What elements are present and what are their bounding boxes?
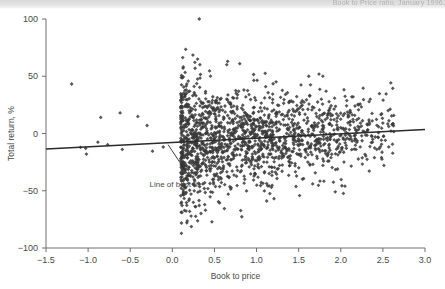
data-point: [244, 95, 248, 99]
data-point: [180, 231, 184, 235]
data-point: [280, 88, 284, 92]
data-point: [198, 85, 202, 89]
x-tick-label: 2.5: [377, 255, 390, 265]
data-point: [258, 106, 262, 110]
data-point: [242, 88, 246, 92]
data-point: [305, 116, 309, 120]
data-point: [189, 225, 193, 229]
data-point: [344, 146, 348, 150]
data-point: [347, 128, 351, 132]
data-point: [193, 66, 197, 70]
data-point: [70, 82, 74, 86]
data-point: [253, 164, 257, 168]
data-point: [322, 179, 326, 183]
data-point: [318, 108, 322, 112]
data-point: [189, 214, 193, 218]
figure-container: Book to Price ratio, January 1996. −100−…: [0, 0, 445, 289]
y-tick-label: −50: [23, 186, 38, 196]
data-point: [307, 74, 311, 78]
data-point: [360, 156, 364, 160]
data-point: [318, 87, 322, 91]
data-point: [329, 156, 333, 160]
data-point: [247, 93, 251, 97]
data-point: [318, 179, 322, 183]
data-point: [226, 59, 230, 63]
data-point: [391, 142, 395, 146]
data-point: [191, 200, 195, 204]
data-point: [297, 148, 301, 152]
data-point: [316, 100, 320, 104]
data-point: [295, 104, 299, 108]
x-tick-label: 0.5: [208, 255, 221, 265]
data-point: [263, 139, 267, 143]
data-point: [257, 110, 261, 114]
data-point: [194, 101, 198, 105]
data-point: [225, 170, 229, 174]
data-point: [217, 114, 221, 118]
x-tick-label: 2.0: [335, 255, 348, 265]
y-tick-label: −100: [18, 243, 38, 253]
data-point: [380, 138, 384, 142]
data-point: [288, 164, 292, 168]
data-point: [252, 178, 256, 182]
data-point: [343, 184, 347, 188]
x-axis-title: Book to price: [211, 271, 261, 281]
data-point: [235, 105, 239, 109]
data-point: [99, 116, 103, 120]
data-point: [197, 17, 201, 21]
data-point: [205, 169, 209, 173]
data-point: [306, 107, 310, 111]
data-point: [382, 164, 386, 168]
data-point: [305, 98, 309, 102]
data-point: [317, 183, 321, 187]
data-point: [282, 101, 286, 105]
data-point: [189, 192, 193, 196]
data-point: [260, 109, 264, 113]
data-point: [194, 214, 198, 218]
data-point: [294, 170, 298, 174]
data-point: [222, 207, 226, 211]
data-point: [280, 169, 284, 173]
data-point: [230, 169, 234, 173]
data-point: [378, 92, 382, 96]
data-point: [275, 177, 279, 181]
data-point: [188, 188, 192, 192]
x-tick-label: 1.5: [292, 255, 305, 265]
data-point: [262, 160, 266, 164]
data-point: [191, 53, 195, 57]
data-point: [321, 74, 325, 78]
data-point: [180, 221, 184, 225]
data-point: [333, 96, 337, 100]
data-point: [383, 138, 387, 142]
data-point: [268, 96, 272, 100]
data-point: [199, 212, 203, 216]
data-point: [235, 96, 239, 100]
data-point: [317, 72, 321, 76]
data-point: [280, 163, 284, 167]
data-point: [387, 119, 391, 123]
data-point: [387, 145, 391, 149]
data-point: [183, 71, 187, 75]
data-point: [343, 94, 347, 98]
data-point: [332, 128, 336, 132]
data-point: [272, 160, 276, 164]
data-point: [321, 102, 325, 106]
data-point: [307, 102, 311, 106]
data-point: [293, 164, 297, 168]
y-tick-label: 0: [33, 129, 38, 139]
data-point: [193, 60, 197, 64]
data-point: [274, 80, 278, 84]
data-point: [197, 204, 201, 208]
data-point: [381, 116, 385, 120]
data-point: [196, 219, 200, 223]
data-point: [281, 118, 285, 122]
data-point: [361, 86, 365, 90]
data-point: [210, 220, 214, 224]
data-point: [306, 153, 310, 157]
data-point: [235, 184, 239, 188]
data-point: [118, 111, 122, 115]
data-point: [203, 203, 207, 207]
data-point: [211, 95, 215, 99]
data-point: [263, 96, 267, 100]
data-point: [295, 174, 299, 178]
